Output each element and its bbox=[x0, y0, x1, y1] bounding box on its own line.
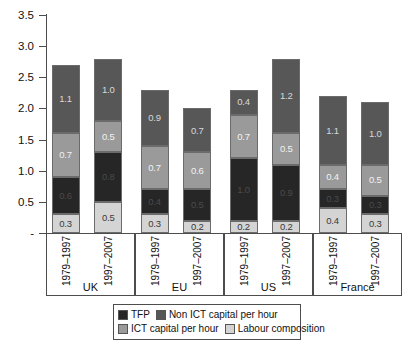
legend-row-1: TFP Non ICT capital per hour bbox=[118, 308, 296, 322]
bar-segment-ict-capital-per-hour[interactable]: 0.6 bbox=[183, 152, 211, 189]
legend-swatch-labour-composition bbox=[225, 324, 235, 334]
bar-segment-ict-capital-per-hour[interactable]: 0.4 bbox=[319, 165, 347, 190]
bar-segment-value-label: 0.2 bbox=[280, 222, 293, 232]
bar-segment-tfp[interactable]: 0.4 bbox=[141, 189, 169, 214]
bar-segment-value-label: 0.9 bbox=[280, 188, 293, 198]
legend-swatch-tfp bbox=[118, 310, 128, 320]
bar-segment-non-ict-capital-per-hour[interactable]: 1.0 bbox=[94, 59, 122, 121]
bar-segment-ict-capital-per-hour[interactable]: 0.7 bbox=[141, 146, 169, 190]
legend-swatch-ict-capital bbox=[118, 324, 128, 334]
y-axis-tick-mark bbox=[39, 233, 46, 234]
y-axis-tick-label: 3.0 bbox=[0, 41, 34, 53]
bar-segment-value-label: 0.5 bbox=[369, 175, 382, 185]
bar-segment-tfp[interactable]: 0.6 bbox=[52, 177, 80, 214]
bar-uk-1979-1997[interactable]: 1.10.70.60.3 bbox=[52, 65, 80, 233]
bar-segment-value-label: 0.5 bbox=[102, 132, 115, 142]
bar-segment-value-label: 0.4 bbox=[326, 216, 339, 226]
y-axis-tick-label: 2.0 bbox=[0, 103, 34, 115]
bar-segment-value-label: 0.4 bbox=[237, 97, 250, 107]
bar-france-1997-2007[interactable]: 1.00.50.30.3 bbox=[361, 102, 389, 233]
bar-segment-ict-capital-per-hour[interactable]: 0.5 bbox=[361, 165, 389, 196]
bar-segment-ict-capital-per-hour[interactable]: 0.7 bbox=[230, 115, 258, 159]
group-label-us: US bbox=[225, 281, 312, 293]
bar-segment-value-label: 1.0 bbox=[369, 129, 382, 139]
period-label-us-early: 1979–1997 bbox=[239, 236, 250, 286]
period-label-eu-early: 1979–1997 bbox=[150, 236, 161, 286]
period-label-france-early: 1979–1997 bbox=[328, 236, 339, 286]
bar-us-1997-2007[interactable]: 1.20.50.90.2 bbox=[272, 59, 300, 233]
legend-item-non-ict-capital[interactable]: Non ICT capital per hour bbox=[156, 310, 278, 320]
bar-uk-1997-2007[interactable]: 1.00.50.80.5 bbox=[94, 59, 122, 233]
bar-segment-ict-capital-per-hour[interactable]: 0.5 bbox=[94, 121, 122, 152]
legend-swatch-non-ict-capital bbox=[156, 310, 166, 320]
bar-segment-tfp[interactable]: 0.3 bbox=[319, 189, 347, 208]
bar-segment-tfp[interactable]: 0.5 bbox=[183, 189, 211, 220]
group-label-france: France bbox=[314, 281, 401, 293]
y-axis-tick-label: - bbox=[0, 227, 34, 239]
chart-legend: TFP Non ICT capital per hour ICT capital… bbox=[113, 304, 301, 340]
bar-segment-labour-composition[interactable]: 0.4 bbox=[319, 208, 347, 233]
bar-segment-labour-composition[interactable]: 0.3 bbox=[52, 214, 80, 233]
y-axis-tick-mark bbox=[39, 46, 46, 47]
bar-segment-non-ict-capital-per-hour[interactable]: 0.9 bbox=[141, 90, 169, 146]
bar-segment-ict-capital-per-hour[interactable]: 0.7 bbox=[52, 133, 80, 177]
bar-segment-value-label: 0.3 bbox=[369, 219, 382, 229]
bar-segment-tfp[interactable]: 0.9 bbox=[272, 165, 300, 221]
group-box-uk: 1979–19971997–2007UK bbox=[46, 234, 135, 296]
bar-france-1979-1997[interactable]: 1.10.40.30.4 bbox=[319, 96, 347, 233]
bar-segment-non-ict-capital-per-hour[interactable]: 1.1 bbox=[319, 96, 347, 165]
bar-segment-value-label: 0.7 bbox=[191, 126, 204, 136]
y-axis-tick-label: 0.5 bbox=[0, 197, 34, 209]
legend-label-non-ict-capital: Non ICT capital per hour bbox=[169, 310, 278, 320]
bar-segment-labour-composition[interactable]: 0.2 bbox=[272, 221, 300, 233]
group-box-us: 1979–19971997–2007US bbox=[224, 234, 313, 296]
period-label-us-late: 1997–2007 bbox=[281, 236, 292, 286]
bar-segment-value-label: 0.8 bbox=[102, 172, 115, 182]
bar-segment-non-ict-capital-per-hour[interactable]: 1.1 bbox=[52, 65, 80, 134]
bar-segment-value-label: 0.5 bbox=[280, 144, 293, 154]
group-box-eu: 1979–19971997–2007EU bbox=[135, 234, 224, 296]
legend-item-tfp[interactable]: TFP bbox=[118, 310, 150, 320]
y-axis-tick-mark bbox=[39, 171, 46, 172]
stacked-bar-chart: -0.51.01.52.02.53.03.5 1.10.70.60.31.00.… bbox=[0, 0, 408, 351]
bar-segment-tfp[interactable]: 0.8 bbox=[94, 152, 122, 202]
bar-segment-value-label: 0.4 bbox=[148, 197, 161, 207]
bar-eu-1997-2007[interactable]: 0.70.60.50.2 bbox=[183, 108, 211, 233]
bar-eu-1979-1997[interactable]: 0.90.70.40.3 bbox=[141, 90, 169, 233]
bar-segment-value-label: 0.3 bbox=[326, 194, 339, 204]
bar-segment-value-label: 0.2 bbox=[237, 222, 250, 232]
bar-segment-value-label: 0.5 bbox=[191, 200, 204, 210]
bar-segment-value-label: 1.0 bbox=[237, 185, 250, 195]
period-label-uk-late: 1997–2007 bbox=[103, 236, 114, 286]
y-axis-tick-label: 2.5 bbox=[0, 72, 34, 84]
y-axis-tick-mark bbox=[39, 15, 46, 16]
bar-segment-labour-composition[interactable]: 0.3 bbox=[141, 214, 169, 233]
category-axis: 1979–19971997–2007UK1979–19971997–2007EU… bbox=[46, 234, 402, 296]
bar-segment-value-label: 0.5 bbox=[102, 213, 115, 223]
bar-segment-tfp[interactable]: 0.3 bbox=[361, 196, 389, 215]
bar-segment-labour-composition[interactable]: 0.2 bbox=[230, 221, 258, 233]
bar-segment-value-label: 1.0 bbox=[102, 85, 115, 95]
bar-segment-non-ict-capital-per-hour[interactable]: 0.4 bbox=[230, 90, 258, 115]
bar-segment-value-label: 0.3 bbox=[59, 219, 72, 229]
bar-segment-labour-composition[interactable]: 0.5 bbox=[94, 202, 122, 233]
bar-segment-labour-composition[interactable]: 0.2 bbox=[183, 221, 211, 233]
bar-segment-non-ict-capital-per-hour[interactable]: 0.7 bbox=[183, 108, 211, 152]
bar-segment-value-label: 0.4 bbox=[326, 172, 339, 182]
bar-segment-value-label: 0.6 bbox=[191, 166, 204, 176]
bar-segment-non-ict-capital-per-hour[interactable]: 1.0 bbox=[361, 102, 389, 164]
legend-item-labour-composition[interactable]: Labour composition bbox=[225, 324, 325, 334]
bar-segment-tfp[interactable]: 1.0 bbox=[230, 158, 258, 220]
y-axis-tick-label: 1.0 bbox=[0, 166, 34, 178]
bar-us-1979-1997[interactable]: 0.40.71.00.2 bbox=[230, 90, 258, 233]
y-axis-tick-mark bbox=[39, 108, 46, 109]
y-axis-tick-mark bbox=[39, 140, 46, 141]
bar-segment-ict-capital-per-hour[interactable]: 0.5 bbox=[272, 133, 300, 164]
legend-item-ict-capital[interactable]: ICT capital per hour bbox=[118, 324, 219, 334]
legend-label-labour-composition: Labour composition bbox=[238, 324, 325, 334]
group-box-france: 1979–19971997–2007France bbox=[313, 234, 402, 296]
bar-segment-labour-composition[interactable]: 0.3 bbox=[361, 214, 389, 233]
bar-segment-non-ict-capital-per-hour[interactable]: 1.2 bbox=[272, 59, 300, 134]
bar-segment-value-label: 0.7 bbox=[148, 163, 161, 173]
y-axis-tick-mark bbox=[39, 77, 46, 78]
